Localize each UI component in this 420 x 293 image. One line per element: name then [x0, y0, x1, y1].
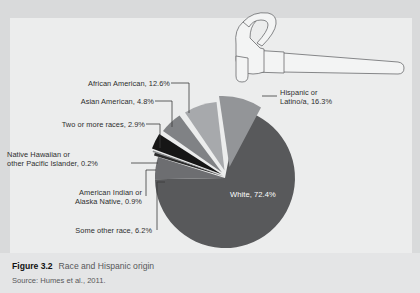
leader-line-asian-american — [155, 101, 172, 127]
label-asian-american: Asian American, 4.8% — [0, 97, 154, 106]
label-american-indian-line2: Alaska Native, 0.9% — [75, 197, 142, 206]
leader-line-two-or-more-races — [146, 124, 160, 148]
label-american-indian: American Indian or Alaska Native, 0.9% — [0, 188, 142, 206]
label-hispanic-latino-line1: Hispanic or — [280, 88, 318, 97]
figure-area: African American, 12.6% Asian American, … — [0, 0, 420, 293]
label-native-hawaiian: Native Hawaiian or other Pacific Islande… — [7, 150, 98, 168]
figure-caption: Figure 3.2Race and Hispanic origin — [12, 261, 154, 271]
figure-page: African American, 12.6% Asian American, … — [0, 0, 420, 293]
label-two-or-more-races: Two or more races, 2.9% — [0, 120, 145, 129]
leader-line-american-indian — [146, 170, 156, 196]
figure-source: Source: Humes et al., 2011. — [12, 276, 106, 285]
label-hispanic-latino: Hispanic or Latino/a, 16.3% — [280, 88, 332, 106]
label-some-other-race: Some other race, 6.2% — [0, 226, 152, 235]
figure-number: Figure 3.2 — [12, 261, 53, 271]
figure-title: Race and Hispanic origin — [59, 261, 155, 271]
label-hispanic-latino-line2: Latino/a, 16.3% — [280, 97, 332, 106]
leader-line-some-other-race — [157, 182, 165, 230]
label-native-hawaiian-line1: Native Hawaiian or — [7, 150, 70, 159]
label-white: White, 72.4% — [230, 190, 276, 199]
leader-line-african-american — [171, 83, 189, 113]
label-native-hawaiian-line2: other Pacific Islander, 0.2% — [7, 159, 98, 168]
leader-lines — [0, 0, 420, 293]
label-african-american: African American, 12.6% — [0, 79, 170, 88]
label-american-indian-line1: American Indian or — [79, 188, 142, 197]
